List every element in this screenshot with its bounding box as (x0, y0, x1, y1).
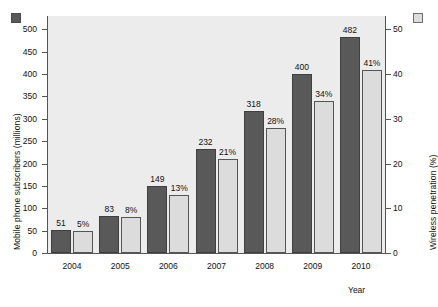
y-axis-left-title: Mobile phone subscribers (millions) (12, 113, 22, 250)
y-axis-left-tick-label: 250 (23, 137, 37, 146)
bar-label-penetration: 13% (163, 184, 195, 193)
bar-penetration (362, 70, 382, 253)
bar-label-penetration: 8% (115, 206, 147, 215)
y-axis-left-tick (42, 164, 47, 165)
y-axis-left-tick-label: 350 (23, 92, 37, 101)
x-axis-line (47, 253, 386, 254)
y-axis-right-tick (386, 253, 391, 254)
bar-label-subscribers: 318 (238, 100, 270, 109)
bar-penetration (121, 217, 141, 253)
bar-label-penetration: 21% (212, 148, 244, 157)
bar-subscribers (340, 37, 360, 253)
y-axis-left-tick-label: 100 (23, 204, 37, 213)
y-axis-left-tick (42, 29, 47, 30)
y-axis-right-tick-label: 20 (393, 160, 402, 169)
y-axis-right-title: Wireless penetration (%) (428, 155, 438, 250)
bar-subscribers (196, 149, 216, 253)
y-axis-left-tick (42, 208, 47, 209)
bar-label-penetration: 41% (356, 59, 388, 68)
bar-subscribers (147, 186, 167, 253)
y-axis-left-tick (42, 74, 47, 75)
y-axis-left-tick-label: 500 (23, 25, 37, 34)
bar-label-penetration: 34% (308, 90, 340, 99)
bar-label-penetration: 5% (67, 220, 99, 229)
bar-penetration (266, 128, 286, 253)
y-axis-left-tick-label: 300 (23, 115, 37, 124)
y-axis-right-tick-label: 10 (393, 204, 402, 213)
y-axis-right-line (385, 16, 386, 254)
y-axis-left-tick (42, 96, 47, 97)
bar-subscribers (292, 74, 312, 253)
y-axis-left-tick (42, 186, 47, 187)
y-axis-right-tick (386, 119, 391, 120)
bar-label-penetration: 28% (260, 117, 292, 126)
bar-label-subscribers: 400 (286, 63, 318, 72)
y-axis-left-tick-label: 400 (23, 70, 37, 79)
y-axis-left-tick (42, 119, 47, 120)
bar-label-subscribers: 232 (190, 138, 222, 147)
x-axis-label: 2005 (96, 262, 144, 271)
bar-subscribers (244, 111, 264, 253)
x-axis-label: 2008 (241, 262, 289, 271)
y-axis-left-tick (42, 231, 47, 232)
y-axis-right-tick (386, 164, 391, 165)
x-axis-label: 2007 (192, 262, 240, 271)
y-axis-right-tick (386, 29, 391, 30)
y-axis-left-tick (42, 52, 47, 53)
bar-penetration (169, 195, 189, 253)
x-axis-title: Year (348, 285, 365, 295)
y-axis-left-tick-label: 0 (32, 249, 37, 258)
x-axis-label: 2009 (289, 262, 337, 271)
x-axis-label: 2004 (48, 262, 96, 271)
bar-label-subscribers: 149 (141, 175, 173, 184)
bar-subscribers (99, 216, 119, 253)
y-axis-right-tick (386, 208, 391, 209)
y-axis-right-tick-label: 50 (393, 25, 402, 34)
y-axis-left-tick (42, 141, 47, 142)
bar-penetration (73, 231, 93, 253)
legend-swatch-penetration (413, 13, 423, 23)
bar-subscribers (51, 230, 71, 253)
bar-penetration (314, 101, 334, 253)
y-axis-right-tick (386, 74, 391, 75)
y-axis-right-tick-label: 0 (393, 249, 398, 258)
y-axis-left-tick (42, 253, 47, 254)
x-axis-label: 2010 (337, 262, 385, 271)
x-axis-label: 2006 (144, 262, 192, 271)
y-axis-right-tick-label: 40 (393, 70, 402, 79)
y-axis-left-tick-label: 50 (28, 227, 37, 236)
y-axis-left-tick-label: 450 (23, 48, 37, 57)
y-axis-left-tick-label: 150 (23, 182, 37, 191)
legend-swatch-subscribers (11, 13, 21, 23)
y-axis-left-tick-label: 200 (23, 160, 37, 169)
bar-label-subscribers: 482 (334, 26, 366, 35)
bar-penetration (218, 159, 238, 253)
y-axis-right-tick-label: 30 (393, 115, 402, 124)
